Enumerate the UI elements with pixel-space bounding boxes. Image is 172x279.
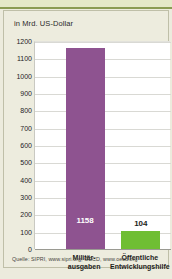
plot-area: 1158104 (34, 41, 170, 249)
y-tick-label: 500 (6, 159, 32, 166)
source-note: Quelle: SIPRI, www.sipri.org; OECD, www.… (12, 256, 138, 262)
bar-value-label: 104 (121, 219, 160, 228)
y-tick-label: 100 (6, 228, 32, 235)
axis-baseline (35, 249, 171, 250)
y-axis-ticks: 1200110010009008007006005004003002001000 (4, 41, 32, 249)
x-label-line: Entwicklungshilfe (106, 262, 172, 271)
x-axis-labels: Militär-ausgabenÖffentlicheEntwicklungsh… (34, 251, 170, 273)
bar-value-label: 1158 (66, 216, 105, 225)
y-tick-label: 1000 (6, 72, 32, 79)
y-tick-label: 800 (6, 107, 32, 114)
chart-figure: in Mrd. US-Dollar 1200110010009008007006… (0, 0, 172, 279)
y-tick-label: 1100 (6, 55, 32, 62)
gridline (35, 42, 171, 43)
bar-1: 1158 (66, 48, 105, 249)
y-tick-label: 400 (6, 176, 32, 183)
chart-panel: in Mrd. US-Dollar 1200110010009008007006… (3, 10, 169, 268)
y-tick-label: 200 (6, 211, 32, 218)
y-tick-label: 600 (6, 142, 32, 149)
axis-unit-label: in Mrd. US-Dollar (14, 19, 73, 28)
y-tick-label: 900 (6, 90, 32, 97)
y-tick-label: 1200 (6, 38, 32, 45)
title-band (0, 0, 172, 7)
y-tick-label: 300 (6, 194, 32, 201)
bar-2: 104 (121, 231, 160, 249)
title-divider (0, 7, 172, 9)
y-tick-label: 0 (6, 246, 32, 253)
y-tick-label: 700 (6, 124, 32, 131)
